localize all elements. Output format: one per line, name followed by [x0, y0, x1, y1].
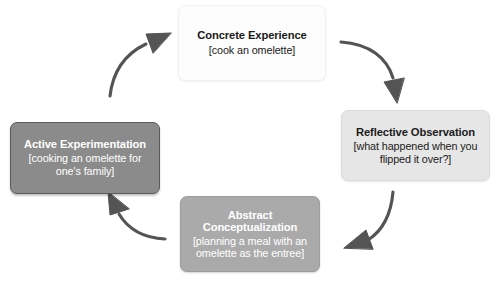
node-active-experimentation[interactable]: Active Experimentation [cooking an omele… — [10, 122, 160, 194]
node-concrete-experience-title: Concrete Experience — [197, 29, 306, 42]
node-active-experimentation-detail: [cooking an omelette for one's family] — [11, 152, 159, 177]
node-abstract-conceptualization-detail: [planning a meal with an omelette as the… — [181, 235, 319, 260]
node-reflective-observation-title: Reflective Observation — [356, 126, 475, 139]
arrow-reflective-to-abstract-icon — [344, 192, 393, 249]
node-concrete-experience[interactable]: Concrete Experience [cook an omelette] — [178, 5, 326, 81]
arrow-concrete-to-reflective-icon — [341, 42, 404, 103]
node-abstract-conceptualization-title: Abstract Conceptualization — [181, 209, 319, 234]
arrow-active-to-concrete-icon — [110, 33, 171, 96]
node-reflective-observation-detail: [what happened when you flipped it over?… — [342, 140, 489, 165]
experiential-learning-cycle-diagram: Concrete Experience [cook an omelette] R… — [0, 0, 499, 288]
node-abstract-conceptualization[interactable]: Abstract Conceptualization [planning a m… — [180, 196, 320, 272]
node-concrete-experience-detail: [cook an omelette] — [204, 44, 300, 57]
node-active-experimentation-title: Active Experimentation — [24, 138, 146, 151]
arrow-abstract-to-active-icon — [108, 192, 165, 239]
node-reflective-observation[interactable]: Reflective Observation [what happened wh… — [341, 110, 490, 181]
